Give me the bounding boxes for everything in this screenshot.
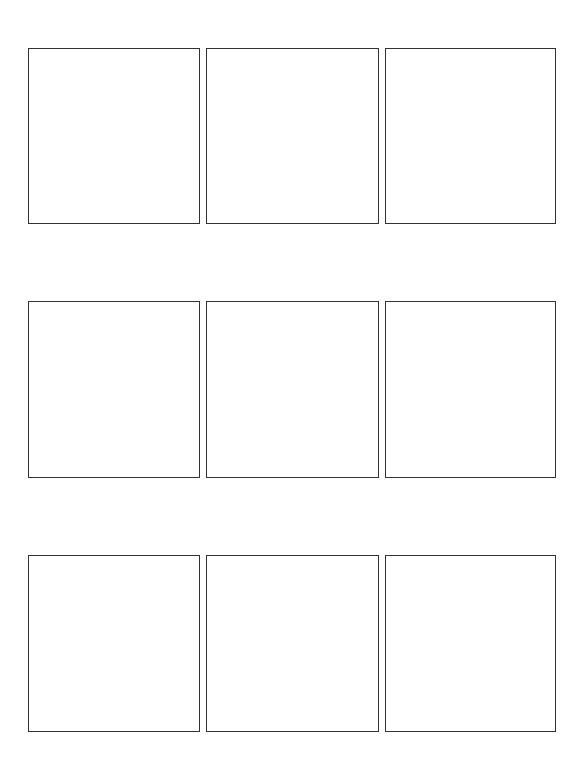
panel-row3-col2 — [206, 555, 379, 732]
panel-content — [207, 49, 378, 223]
panel-content — [29, 49, 199, 223]
panel-row3-col1 — [28, 555, 200, 732]
panel-row1-col3 — [385, 48, 556, 224]
storyboard-page — [0, 0, 583, 767]
panel-content — [386, 302, 555, 477]
panel-row2-col2 — [206, 301, 379, 478]
panel-row2-col1 — [28, 301, 200, 478]
panel-row1-col1 — [28, 48, 200, 224]
panel-content — [386, 556, 555, 731]
panel-row3-col3 — [385, 555, 556, 732]
panel-content — [29, 302, 199, 477]
panel-content — [207, 556, 378, 731]
panel-content — [29, 556, 199, 731]
panel-content — [386, 49, 555, 223]
panel-row1-col2 — [206, 48, 379, 224]
panel-row2-col3 — [385, 301, 556, 478]
panel-content — [207, 302, 378, 477]
